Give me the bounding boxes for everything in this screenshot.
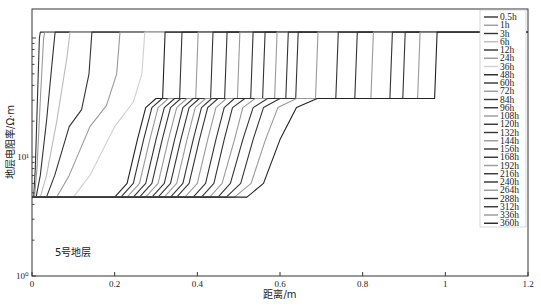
x-tick-label: 1 — [443, 279, 448, 289]
y-tick-label: 10⁰ — [16, 271, 29, 281]
chart: 00.20.40.60.811.2 10⁰10¹ 距离/m 地层电阻率/Ω·m … — [0, 0, 541, 308]
x-tick-label: 0.8 — [357, 279, 369, 289]
legend: 0.5h1h3h6h12h24h36h48h60h72h84h96h108h12… — [480, 10, 526, 228]
legend-label: 360h — [500, 218, 519, 228]
x-tick-label: 0.4 — [192, 279, 204, 289]
x-axis-title: 距离/m — [263, 288, 296, 300]
y-axis-title: 地层电阻率/Ω·m — [4, 105, 16, 179]
x-tick-label: 0.6 — [274, 279, 286, 289]
x-tick-label: 1.2 — [522, 279, 533, 289]
x-tick-label: 0 — [30, 279, 35, 289]
x-tick-label: 0.2 — [109, 279, 120, 289]
y-tick-label: 10¹ — [17, 152, 29, 162]
layer-annotation: 5号地层 — [55, 246, 91, 258]
